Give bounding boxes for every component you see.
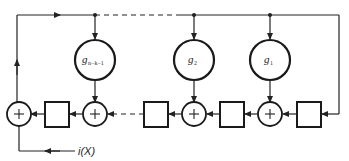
coefficient-g-n-k-1: g n−k−1 (75, 40, 115, 102)
register-stage (45, 102, 69, 127)
svg-text:n−k−1: n−k−1 (88, 60, 104, 66)
input-label: i(X) (78, 145, 95, 157)
svg-text:1: 1 (270, 60, 273, 66)
svg-text:2: 2 (194, 60, 197, 66)
input-line: i(X) (19, 126, 95, 157)
coefficient-g-2: g 2 (174, 40, 214, 102)
encoder-diagram: g n−k−1 g 2 g 1 (0, 0, 349, 161)
register-stage (144, 102, 168, 127)
register-stage (220, 102, 244, 127)
tap-points (93, 13, 272, 39)
coefficient-g-1: g 1 (250, 40, 290, 102)
shift-register-row (7, 102, 339, 127)
register-stage (297, 102, 321, 127)
